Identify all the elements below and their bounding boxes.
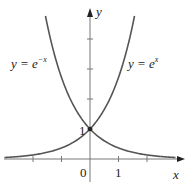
curve-e-neg-x (45, 16, 175, 158)
y-axis-arrow-icon (87, 8, 93, 17)
x-axis-arrow-icon (177, 156, 185, 162)
eq-right-exponent: x (155, 55, 159, 64)
y-axis-label: y (96, 5, 102, 18)
x-tick-label-1: 1 (115, 166, 122, 179)
label-e-x: y = ex (128, 56, 158, 70)
x-axis-label: x (173, 168, 179, 181)
chart-plot-area (0, 0, 186, 185)
eq-left-base: y = e (11, 56, 38, 71)
eq-right-base: y = e (128, 56, 155, 71)
y-tick-label-1: 1 (79, 124, 86, 137)
label-e-neg-x: y = e−x (11, 56, 47, 70)
eq-left-exponent: −x (38, 55, 47, 64)
origin-label: 0 (80, 166, 87, 179)
curve-e-x (5, 16, 135, 158)
intersection-point (88, 127, 92, 131)
